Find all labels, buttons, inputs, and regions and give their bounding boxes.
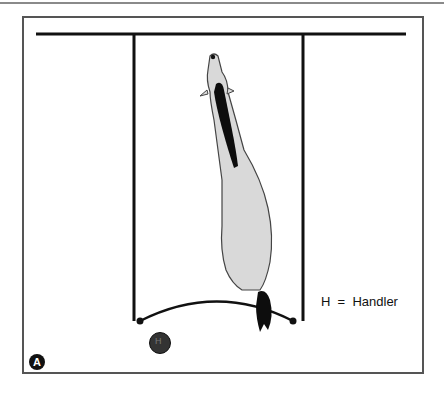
ear-right xyxy=(227,88,234,94)
animal-icon xyxy=(200,54,272,332)
chute-diagram xyxy=(0,0,444,393)
ear-left xyxy=(200,90,208,96)
legend-handler: H = Handler xyxy=(321,294,398,309)
gate-hinge-left xyxy=(137,318,144,325)
tail xyxy=(256,291,272,332)
gate-hinge-right xyxy=(290,318,297,325)
nose xyxy=(211,55,215,59)
handler-marker-label: H xyxy=(155,336,162,346)
panel-label-badge: A xyxy=(29,354,45,370)
